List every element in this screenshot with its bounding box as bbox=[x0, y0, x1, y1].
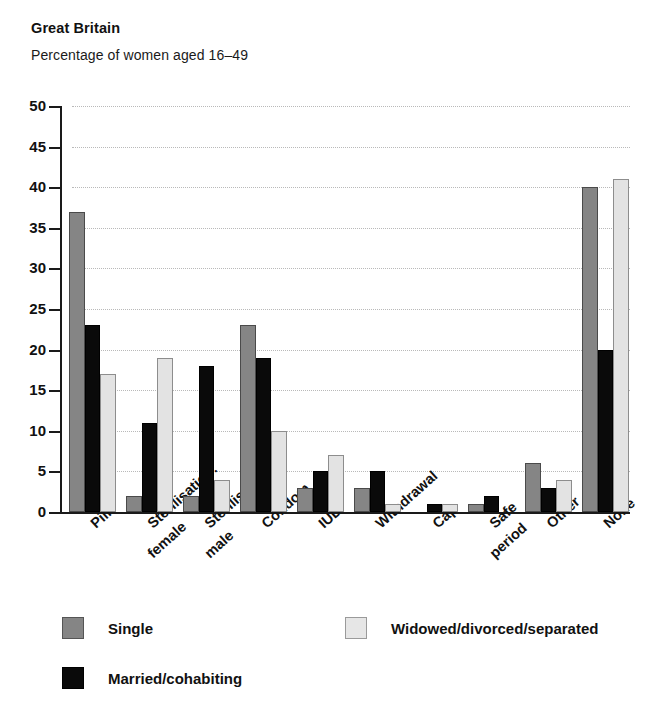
bar-widowed bbox=[328, 455, 344, 512]
bar-single bbox=[468, 504, 484, 512]
bar-single bbox=[69, 212, 85, 512]
bar-single bbox=[126, 496, 142, 512]
bar-single bbox=[354, 488, 370, 512]
bar-married bbox=[256, 358, 272, 512]
bar-single bbox=[297, 488, 313, 512]
bar-single bbox=[582, 187, 598, 512]
chart-figure: Great Britain Percentage of women aged 1… bbox=[0, 0, 668, 718]
bar-widowed bbox=[100, 374, 116, 512]
bar-married bbox=[85, 325, 101, 512]
legend-label-single: Single bbox=[108, 620, 153, 637]
legend-swatch-single bbox=[62, 617, 84, 639]
bar-married bbox=[541, 488, 557, 512]
legend-item-widowed[interactable]: Widowed/divorced/separated bbox=[345, 617, 598, 639]
bar-married bbox=[370, 471, 386, 512]
bar-widowed bbox=[271, 431, 287, 512]
bar-single bbox=[240, 325, 256, 512]
bar-single bbox=[183, 496, 199, 512]
bar-widowed bbox=[157, 358, 173, 512]
bar-widowed bbox=[214, 480, 230, 512]
bar-widowed bbox=[613, 179, 629, 512]
legend-item-single[interactable]: Single bbox=[62, 617, 153, 639]
legend-item-married[interactable]: Married/cohabiting bbox=[62, 667, 242, 689]
legend-swatch-married bbox=[62, 667, 84, 689]
bar-widowed bbox=[385, 504, 401, 512]
legend-label-widowed: Widowed/divorced/separated bbox=[391, 620, 598, 637]
bar-single bbox=[525, 463, 541, 512]
bar-married bbox=[313, 471, 329, 512]
bar-married bbox=[598, 350, 614, 512]
legend-label-married: Married/cohabiting bbox=[108, 670, 242, 687]
bar-married bbox=[427, 504, 443, 512]
chart-legend: SingleWidowed/divorced/separatedMarried/… bbox=[0, 0, 668, 718]
bar-married bbox=[199, 366, 215, 512]
bar-married bbox=[484, 496, 500, 512]
legend-swatch-widowed bbox=[345, 617, 367, 639]
bar-widowed bbox=[442, 504, 458, 512]
bar-married bbox=[142, 423, 158, 512]
bar-widowed bbox=[556, 480, 572, 512]
